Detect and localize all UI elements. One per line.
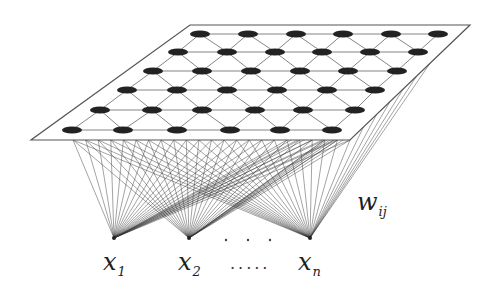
weight-line bbox=[161, 140, 310, 238]
weight-label-wij: wij bbox=[357, 190, 387, 218]
neuron-node bbox=[143, 67, 163, 74]
input-label-xn: xn bbox=[298, 250, 321, 278]
neuron-node bbox=[217, 86, 237, 93]
neuron-node bbox=[142, 106, 162, 113]
ellipsis-dots bbox=[225, 239, 271, 241]
input-node-x1 bbox=[112, 236, 116, 240]
neuron-node bbox=[167, 86, 187, 93]
neuron-node bbox=[317, 86, 337, 93]
neuron-node bbox=[62, 126, 82, 133]
weight-line bbox=[86, 140, 114, 238]
neuron-node bbox=[245, 106, 265, 113]
input-node-x2 bbox=[187, 236, 191, 240]
weight-line bbox=[114, 127, 363, 238]
neuron-node bbox=[290, 67, 310, 74]
neuron-node bbox=[192, 106, 212, 113]
neuron-node bbox=[428, 30, 448, 37]
neuron-node bbox=[238, 30, 258, 37]
neuron-node bbox=[217, 48, 237, 55]
weight-line bbox=[224, 140, 310, 238]
neuron-node bbox=[293, 106, 313, 113]
input-node-xn bbox=[308, 236, 312, 240]
output-map-plane bbox=[31, 25, 470, 140]
input-label-x1: x1 bbox=[103, 250, 126, 278]
neuron-node bbox=[190, 30, 210, 37]
neuron-node bbox=[387, 67, 407, 74]
neuron-node bbox=[220, 126, 240, 133]
neuron-node bbox=[365, 86, 385, 93]
neuron-node bbox=[322, 126, 342, 133]
som-diagram bbox=[0, 0, 497, 290]
neuron-node bbox=[90, 106, 110, 113]
neuron-node bbox=[241, 67, 261, 74]
weight-line bbox=[136, 140, 310, 238]
neuron-node bbox=[117, 86, 137, 93]
neuron-node bbox=[167, 126, 187, 133]
weight-line bbox=[86, 140, 189, 238]
neuron-node bbox=[286, 30, 306, 37]
input-label-x2: x2 bbox=[178, 250, 201, 278]
weight-line bbox=[310, 140, 312, 238]
input-nodes bbox=[112, 236, 312, 240]
neuron-node bbox=[192, 67, 212, 74]
neuron-node bbox=[312, 48, 332, 55]
neuron-node bbox=[265, 48, 285, 55]
weight-line bbox=[73, 140, 310, 238]
neuron-node bbox=[345, 106, 365, 113]
label-ellipsis: ..... bbox=[230, 254, 270, 273]
neuron-node bbox=[267, 86, 287, 93]
neuron-node bbox=[333, 30, 353, 37]
neuron-node bbox=[381, 30, 401, 37]
weight-line bbox=[123, 140, 189, 238]
neuron-node bbox=[360, 48, 380, 55]
neuron-node bbox=[408, 48, 428, 55]
neuron-node bbox=[168, 48, 188, 55]
weight-line bbox=[111, 140, 114, 238]
neuron-node bbox=[270, 126, 290, 133]
neuron-node bbox=[113, 126, 133, 133]
neuron-node bbox=[338, 67, 358, 74]
weight-line bbox=[73, 140, 189, 238]
